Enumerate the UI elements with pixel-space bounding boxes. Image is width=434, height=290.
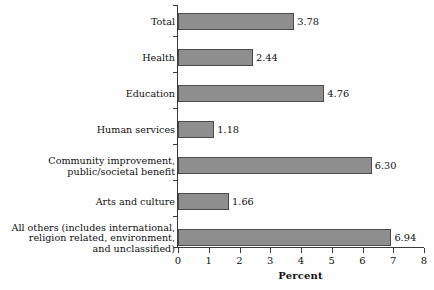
category-tick bbox=[173, 108, 178, 109]
bar[interactable] bbox=[178, 13, 294, 30]
bar-row: Arts and culture1.66 bbox=[0, 193, 434, 211]
category-label: Health bbox=[0, 53, 175, 64]
bar[interactable] bbox=[178, 193, 229, 210]
value-tick-label: 8 bbox=[412, 254, 434, 267]
category-tick bbox=[173, 36, 178, 37]
category-tick bbox=[173, 247, 178, 248]
value-tick bbox=[209, 248, 210, 253]
value-tick-label: 6 bbox=[351, 254, 375, 267]
value-tick-label: 1 bbox=[197, 254, 221, 267]
bar-chart: Total3.78Health2.44Education4.76Human se… bbox=[0, 0, 434, 290]
bar-row: Health2.44 bbox=[0, 49, 434, 67]
x-axis-title: Percent bbox=[177, 270, 424, 281]
bar-row: Community improvement, public/societal b… bbox=[0, 157, 434, 175]
bar-value-label: 1.18 bbox=[217, 123, 239, 136]
category-tick bbox=[173, 5, 178, 6]
value-tick-label: 4 bbox=[289, 254, 313, 267]
bar[interactable] bbox=[178, 229, 391, 246]
category-tick bbox=[173, 144, 178, 145]
category-label: Education bbox=[0, 89, 175, 100]
plot-area: Total3.78Health2.44Education4.76Human se… bbox=[0, 0, 434, 290]
category-label: Community improvement, public/societal b… bbox=[0, 156, 175, 177]
bar[interactable] bbox=[178, 121, 214, 138]
category-label: Total bbox=[0, 17, 175, 28]
value-tick-label: 2 bbox=[228, 254, 252, 267]
value-tick bbox=[270, 248, 271, 253]
bar-value-label: 3.78 bbox=[297, 15, 319, 28]
bar[interactable] bbox=[178, 49, 253, 66]
value-tick bbox=[363, 248, 364, 253]
value-tick bbox=[301, 248, 302, 253]
value-tick bbox=[332, 248, 333, 253]
value-tick-label: 5 bbox=[320, 254, 344, 267]
value-tick-label: 3 bbox=[258, 254, 282, 267]
bar-row: All others (includes international, reli… bbox=[0, 229, 434, 247]
bar-value-label: 4.76 bbox=[327, 87, 349, 100]
value-tick bbox=[424, 248, 425, 253]
bar-value-label: 6.94 bbox=[394, 231, 416, 244]
category-tick bbox=[173, 72, 178, 73]
category-label: Human services bbox=[0, 125, 175, 136]
bar-row: Human services1.18 bbox=[0, 121, 434, 139]
bar-value-label: 6.30 bbox=[375, 159, 397, 172]
value-tick bbox=[240, 248, 241, 253]
value-tick bbox=[393, 248, 394, 253]
category-label: All others (includes international, reli… bbox=[0, 223, 175, 255]
bar-row: Total3.78 bbox=[0, 13, 434, 31]
category-tick bbox=[173, 216, 178, 217]
bar[interactable] bbox=[178, 157, 372, 174]
bar[interactable] bbox=[178, 85, 324, 102]
value-tick-label: 0 bbox=[166, 254, 190, 267]
value-tick bbox=[178, 248, 179, 253]
bar-value-label: 1.66 bbox=[232, 195, 254, 208]
category-label: Arts and culture bbox=[0, 197, 175, 208]
bar-value-label: 2.44 bbox=[256, 51, 278, 64]
bar-row: Education4.76 bbox=[0, 85, 434, 103]
category-tick bbox=[173, 180, 178, 181]
value-tick-label: 7 bbox=[381, 254, 405, 267]
